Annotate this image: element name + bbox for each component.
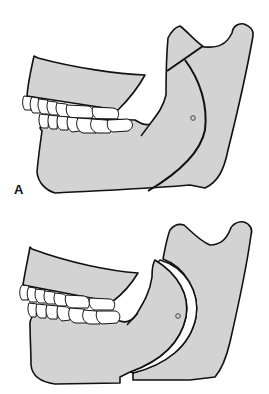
mandible-diagram-b (0, 197, 269, 394)
panel-a: A (0, 0, 269, 197)
mandible-diagram-a (0, 0, 269, 197)
panel-label-a: A (14, 182, 23, 197)
panel-b: B (0, 197, 269, 394)
